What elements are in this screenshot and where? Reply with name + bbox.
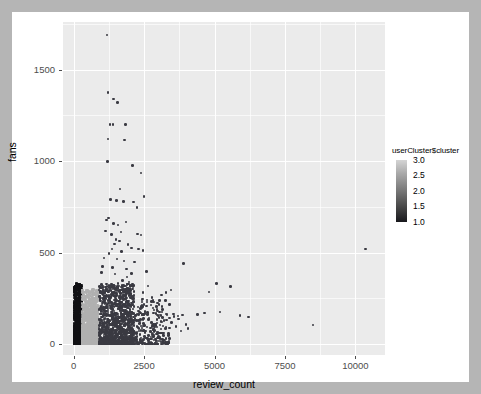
scatter-point — [124, 123, 127, 126]
y-tick-label: 500 — [12, 248, 55, 258]
scatter-point — [108, 252, 111, 255]
scatter-point-cluster2 — [128, 311, 131, 314]
scatter-point — [125, 268, 128, 271]
scatter-point-cluster2 — [125, 300, 128, 303]
x-tick-label: 0 — [44, 361, 104, 371]
scatter-point — [182, 262, 185, 265]
scatter-point — [173, 315, 176, 318]
scatter-point-cluster2 — [111, 317, 114, 320]
scatter-point-cluster2 — [99, 298, 102, 301]
scatter-plot-screenshot: 050010001500 fans 025005000750010000 rev… — [0, 0, 481, 394]
scatter-point-cluster3 — [84, 327, 87, 330]
scatter-point — [170, 321, 173, 324]
scatter-point-cluster3 — [88, 342, 91, 345]
scatter-point-cluster1 — [75, 319, 78, 322]
scatter-point-cluster2 — [115, 294, 118, 297]
scatter-point — [105, 219, 108, 222]
scatter-point — [112, 222, 115, 225]
scatter-point-cluster3 — [86, 340, 89, 343]
scatter-point-cluster2 — [155, 343, 158, 346]
scatter-point — [145, 270, 148, 273]
x-tick-mark — [285, 356, 286, 359]
scatter-point — [126, 276, 129, 279]
scatter-point-cluster2 — [157, 335, 160, 338]
scatter-point-cluster2 — [145, 305, 148, 308]
y-tick-label: 0 — [12, 339, 55, 349]
scatter-point-cluster2 — [118, 300, 121, 303]
legend-tick-mark — [407, 222, 411, 223]
scatter-point-cluster3 — [90, 318, 93, 321]
legend-key-label: 3.0 — [413, 156, 425, 165]
scatter-point — [143, 195, 146, 198]
scatter-point-cluster2 — [141, 314, 144, 317]
scatter-point-cluster2 — [113, 338, 116, 341]
scatter-point-cluster2 — [139, 307, 142, 310]
scatter-point — [111, 266, 114, 269]
scatter-point-cluster2 — [105, 283, 108, 286]
x-tick-label: 2500 — [114, 361, 174, 371]
scatter-point-cluster2 — [161, 321, 164, 324]
scatter-point-cluster3 — [93, 338, 96, 341]
scatter-point — [168, 317, 171, 320]
scatter-point-cluster2 — [109, 289, 112, 292]
legend-key-label: 2.5 — [413, 171, 425, 180]
scatter-point-cluster2 — [152, 328, 155, 331]
scatter-point-cluster2 — [165, 319, 168, 322]
scatter-point — [219, 311, 222, 314]
scatter-point — [208, 291, 211, 294]
scatter-point-cluster2 — [103, 313, 106, 316]
y-tick-mark — [59, 253, 62, 254]
scatter-point-cluster2 — [123, 310, 126, 313]
scatter-point — [117, 224, 120, 227]
scatter-point — [109, 198, 112, 201]
scatter-point-cluster2 — [129, 326, 132, 329]
scatter-point — [100, 271, 103, 274]
scatter-point — [165, 291, 168, 294]
scatter-point — [116, 258, 119, 261]
scatter-point-cluster2 — [118, 343, 121, 346]
scatter-point-cluster3 — [94, 343, 97, 346]
scatter-point-cluster2 — [150, 300, 153, 303]
scatter-point — [123, 139, 126, 142]
scatter-point — [111, 248, 114, 251]
scatter-point-cluster2 — [165, 326, 168, 329]
scatter-point — [125, 221, 128, 224]
scatter-point — [160, 294, 163, 297]
legend-body: 3.02.52.01.51.0 — [392, 158, 468, 224]
scatter-point-cluster1 — [77, 324, 80, 327]
scatter-point — [107, 138, 110, 141]
legend-tick-mark — [407, 191, 411, 192]
scatter-point-cluster2 — [131, 297, 134, 300]
scatter-point-cluster2 — [103, 324, 106, 327]
legend-tick-mark — [407, 176, 411, 177]
scatter-point-cluster2 — [160, 328, 163, 331]
scatter-point-cluster3 — [82, 339, 85, 342]
scatter-point-cluster2 — [155, 324, 158, 327]
scatter-point-cluster2 — [110, 323, 113, 326]
scatter-point-cluster2 — [99, 313, 102, 316]
scatter-point-cluster2 — [125, 333, 128, 336]
scatter-point — [119, 188, 122, 191]
scatter-point-cluster2 — [146, 313, 149, 316]
scatter-point-cluster2 — [122, 288, 125, 291]
scatter-point-cluster2 — [159, 324, 162, 327]
scatter-point — [120, 250, 123, 253]
scatter-point — [116, 101, 119, 104]
x-tick-label: 5000 — [185, 361, 245, 371]
scatter-point-cluster1 — [79, 283, 82, 286]
scatter-point-cluster2 — [144, 331, 147, 334]
scatter-point — [132, 201, 135, 204]
x-tick-mark — [355, 356, 356, 359]
scatter-point — [130, 272, 133, 275]
scatter-point-cluster2 — [161, 308, 164, 311]
scatter-point — [127, 243, 130, 246]
scatter-point — [107, 217, 110, 220]
scatter-point — [112, 98, 115, 101]
x-tick-label: 7500 — [255, 361, 315, 371]
x-tick-mark — [215, 356, 216, 359]
scatter-point-cluster1 — [77, 293, 80, 296]
scatter-point — [115, 199, 118, 202]
plot-card: 050010001500 fans 025005000750010000 rev… — [12, 12, 469, 382]
scatter-point — [364, 248, 367, 251]
scatter-point-cluster2 — [129, 293, 132, 296]
